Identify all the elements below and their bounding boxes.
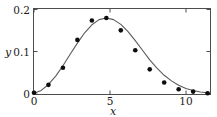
data-point <box>162 80 167 85</box>
y-tick-label-0p2: 0.2 <box>13 4 30 16</box>
y-tick-label-0p1: 0.1 <box>13 46 30 58</box>
data-point <box>46 83 51 88</box>
data-point <box>104 16 109 21</box>
y-tick-label-0: 0 <box>23 88 30 100</box>
data-point <box>147 67 152 72</box>
chart-figure: 0 5 10 0 0.1 0.2 x y <box>0 0 217 117</box>
plot-frame <box>34 9 211 95</box>
data-point <box>90 18 95 23</box>
y-axis-ticks <box>34 10 211 95</box>
data-point <box>32 91 37 96</box>
data-point <box>205 91 210 96</box>
data-point <box>119 28 124 33</box>
y-tick-labels: 0 0.1 0.2 <box>13 4 30 100</box>
x-tick-label-10: 10 <box>179 95 192 107</box>
x-tick-label-0: 0 <box>31 95 38 107</box>
y-axis-label: y <box>4 46 12 59</box>
data-point <box>176 87 181 92</box>
data-point <box>133 48 138 53</box>
data-point <box>75 38 80 43</box>
data-point <box>191 89 196 94</box>
x-axis-label: x <box>110 105 117 117</box>
plot-canvas: 0 5 10 0 0.1 0.2 x y <box>0 0 217 117</box>
data-point <box>61 65 66 70</box>
data-point-group <box>32 16 210 96</box>
